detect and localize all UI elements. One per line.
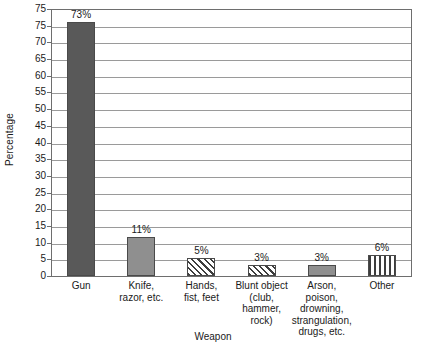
y-axis-tick-label: 40 [35,138,46,148]
category-label-line: Arson, poison, [292,280,352,303]
bar-value-label: 3% [315,252,329,263]
category-label-line: Blunt object [232,280,292,292]
category-label-line: Other [352,280,412,292]
bar-series: 73%11%5%3%3%6% [51,9,412,276]
y-axis-tick-label: 55 [35,87,46,97]
x-axis-category-label: Hands,fist, feet [171,280,231,303]
y-axis-tick-label: 60 [35,71,46,81]
bar-group[interactable]: 3% [232,9,292,276]
x-axis-title-text: Weapon [194,331,231,342]
y-axis-tick-label: 5 [40,254,46,264]
bar-value-label: 11% [132,224,151,235]
bar-group[interactable]: 3% [292,9,352,276]
x-axis-category-label: Other [352,280,412,292]
y-axis-tick-label: 35 [35,154,46,164]
y-axis-tick-label: 45 [35,121,46,131]
y-axis-tick-label: 50 [35,104,46,114]
bar-value-label: 5% [194,245,208,256]
category-label-line: rock) [232,315,292,327]
bar-value-label: 73% [71,9,91,20]
bar[interactable] [368,255,396,276]
bar-group[interactable]: 11% [111,9,171,276]
bar[interactable] [187,258,215,276]
y-axis-tick-label: 10 [35,238,46,248]
y-axis-tick-label: 30 [35,171,46,181]
x-axis-category-label: Arson, poison,drowning,strangulation,dru… [292,280,352,338]
bar-value-label: 6% [375,242,389,253]
y-axis-tick-label: 0 [40,271,46,281]
category-label-line: Gun [51,280,111,292]
bar-group[interactable]: 6% [352,9,412,276]
bar-value-label: 3% [254,252,268,263]
bar[interactable] [308,265,336,276]
category-label-line: Knife, [111,280,171,292]
x-axis-category-label: Blunt object(club,hammer,rock) [232,280,292,326]
y-axis-tick-label: 25 [35,188,46,198]
y-axis-tick-labels: 75757065605550454035302520151050 [18,0,48,285]
x-axis-category-label: Gun [51,280,111,292]
category-label-line: (club, [232,292,292,304]
y-axis-tick-label: 75 [35,21,46,31]
bar[interactable] [67,22,95,276]
y-axis-title-text: Percentage [5,112,16,165]
bar-chart: Percentage 75757065605550454035302520151… [0,0,426,350]
x-axis-category-label: Knife,razor, etc. [111,280,171,303]
y-axis-tick-label: 70 [35,37,46,47]
category-label-line: strangulation, [292,315,352,327]
bar-group[interactable]: 5% [171,9,231,276]
bar[interactable] [248,265,276,276]
y-axis-tick-label: 65 [35,54,46,64]
x-axis-title: Weapon [0,331,426,342]
y-axis-title: Percentage [2,0,18,278]
bar[interactable] [127,237,155,276]
y-axis-tick-label: 15 [35,221,46,231]
bar-group[interactable]: 73% [51,9,111,276]
category-label-line: fist, feet [171,292,231,304]
category-label-line: drowning, [292,303,352,315]
y-axis-tickmark [47,276,51,277]
y-axis-tick-label: 20 [35,204,46,214]
category-label-line: razor, etc. [111,292,171,304]
category-label-line: Hands, [171,280,231,292]
y-axis-tick-label: 75 [35,4,46,14]
category-label-line: hammer, [232,303,292,315]
